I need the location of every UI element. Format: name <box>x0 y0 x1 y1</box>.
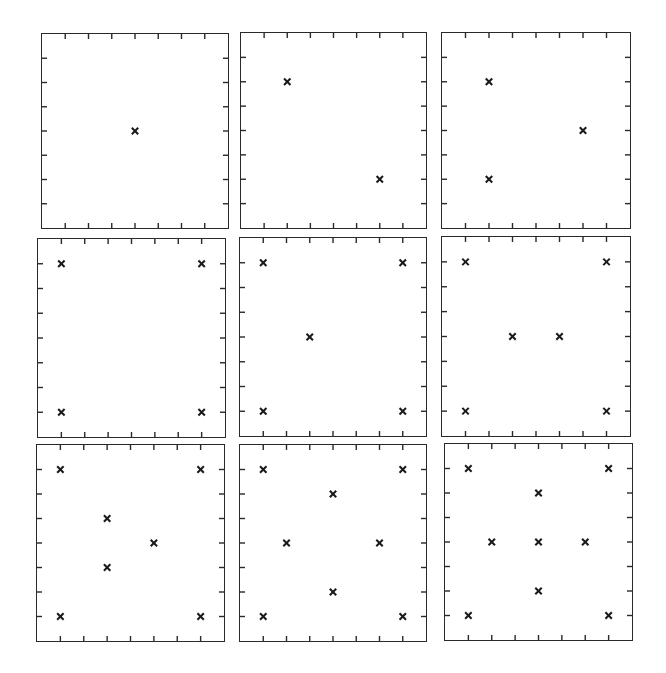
panel-1 <box>41 33 229 229</box>
cross-marker-icon <box>57 466 63 472</box>
panel-7-plot <box>37 445 224 641</box>
cross-marker-icon <box>307 334 313 340</box>
cross-marker-icon <box>400 260 406 266</box>
panel-8 <box>239 444 427 642</box>
cross-marker-icon <box>58 261 64 267</box>
cross-marker-icon <box>462 408 468 414</box>
panel-7 <box>36 444 225 642</box>
cross-marker-icon <box>465 465 471 471</box>
cross-marker-icon <box>260 408 266 414</box>
cross-marker-icon <box>198 261 204 267</box>
cross-marker-icon <box>283 540 289 546</box>
panel-3 <box>441 32 631 229</box>
panel-9-plot <box>445 444 632 640</box>
cross-marker-icon <box>260 260 266 266</box>
cross-marker-icon <box>400 408 406 414</box>
panel-8-plot <box>240 445 426 641</box>
cross-marker-icon <box>489 539 495 545</box>
cross-marker-icon <box>377 176 383 182</box>
cross-marker-icon <box>197 466 203 472</box>
cross-marker-icon <box>462 259 468 265</box>
panel-3-plot <box>442 33 630 228</box>
cross-marker-icon <box>260 613 266 619</box>
cross-marker-icon <box>605 465 611 471</box>
cross-marker-icon <box>376 540 382 546</box>
panel-6-plot <box>442 237 630 436</box>
cross-marker-icon <box>603 259 609 265</box>
cross-marker-icon <box>556 333 562 339</box>
cross-marker-icon <box>330 491 336 497</box>
cross-marker-icon <box>582 539 588 545</box>
cross-marker-icon <box>400 466 406 472</box>
cross-marker-icon <box>580 127 586 133</box>
cross-marker-icon <box>535 490 541 496</box>
cross-marker-icon <box>132 128 138 134</box>
panel-4 <box>37 238 226 438</box>
cross-marker-icon <box>400 613 406 619</box>
cross-marker-icon <box>465 612 471 618</box>
panel-2-plot <box>241 33 426 228</box>
cross-marker-icon <box>198 409 204 415</box>
panel-9 <box>444 443 633 641</box>
cross-marker-icon <box>260 466 266 472</box>
panel-5-plot <box>240 238 426 436</box>
cross-marker-icon <box>605 612 611 618</box>
panel-4-plot <box>38 239 225 437</box>
cross-marker-icon <box>330 589 336 595</box>
cross-marker-icon <box>535 588 541 594</box>
cross-marker-icon <box>603 408 609 414</box>
cross-marker-icon <box>57 613 63 619</box>
cross-marker-icon <box>509 333 515 339</box>
cross-marker-icon <box>104 515 110 521</box>
cross-marker-icon <box>535 539 541 545</box>
cross-marker-icon <box>104 564 110 570</box>
cross-marker-icon <box>58 409 64 415</box>
cross-marker-icon <box>486 79 492 85</box>
panel-1-plot <box>42 34 228 228</box>
panel-2 <box>240 32 427 229</box>
cross-marker-icon <box>284 79 290 85</box>
cross-marker-icon <box>486 176 492 182</box>
panel-6 <box>441 236 631 437</box>
panel-5 <box>239 237 427 437</box>
cross-marker-icon <box>151 540 157 546</box>
cross-marker-icon <box>197 613 203 619</box>
